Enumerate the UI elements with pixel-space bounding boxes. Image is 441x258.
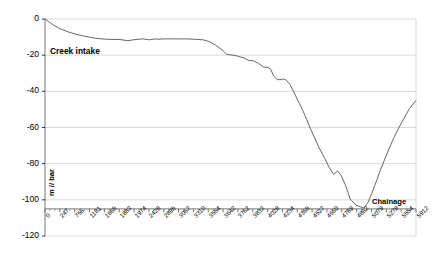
- chart-container: 0-20-40-60-80-100-120 024775611811665188…: [0, 0, 441, 258]
- y-axis-tick-label: -100: [9, 194, 39, 204]
- data-line-pressure-profile: [45, 19, 416, 208]
- y-axis-tick-label: -40: [9, 85, 39, 95]
- x-axis-title: Chainage: [372, 197, 406, 206]
- gridlines: [45, 19, 416, 236]
- y-axis-tick-label: -20: [9, 49, 39, 59]
- y-axis-tick-label: 0: [9, 13, 39, 23]
- y-axis-tick-label: -120: [9, 230, 39, 240]
- y-axis-tick-label: -80: [9, 158, 39, 168]
- y-axis-tick-label: -60: [9, 122, 39, 132]
- annotation-creek-intake: Creek intake: [50, 46, 100, 56]
- chart-canvas: [0, 0, 441, 258]
- y-axis-ticks: [42, 19, 45, 236]
- y-axis-title: m // bar: [47, 169, 56, 196]
